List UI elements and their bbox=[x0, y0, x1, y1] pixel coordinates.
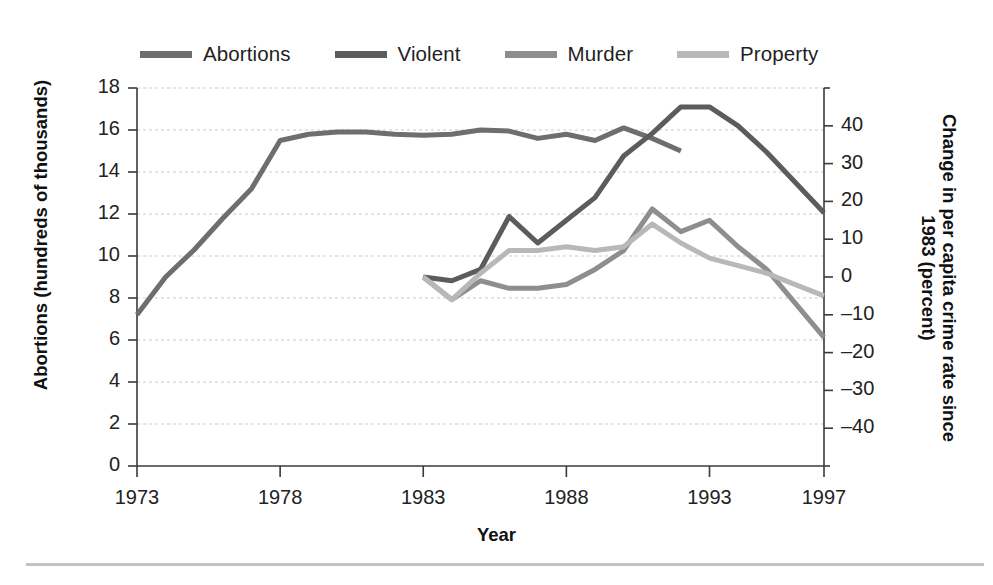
y-tick-label-left: 6 bbox=[80, 327, 120, 350]
x-tick-label: 1983 bbox=[388, 486, 458, 509]
data-series bbox=[137, 107, 824, 338]
y-tick-label-left: 14 bbox=[80, 159, 120, 182]
series-line-abortions bbox=[137, 128, 681, 315]
y-tick-label-right: 30 bbox=[841, 151, 901, 174]
y-tick-label-right: –10 bbox=[841, 302, 901, 325]
chart-figure: AbortionsViolentMurderProperty 024681012… bbox=[0, 0, 993, 585]
y-tick-label-right: –40 bbox=[841, 415, 901, 438]
x-axis-title: Year bbox=[0, 524, 993, 546]
axis-lines bbox=[137, 88, 824, 466]
y-tick-label-left: 10 bbox=[80, 243, 120, 266]
x-tick-label: 1988 bbox=[531, 486, 601, 509]
series-line-violent bbox=[423, 107, 824, 281]
y-axis-left-title: Abortions (hundreds of thousands) bbox=[30, 70, 52, 400]
y-tick-label-right: 40 bbox=[841, 113, 901, 136]
y-tick-label-right: –20 bbox=[841, 340, 901, 363]
y-tick-label-right: 10 bbox=[841, 226, 901, 249]
y-tick-label-left: 0 bbox=[80, 453, 120, 476]
y-tick-label-left: 8 bbox=[80, 285, 120, 308]
gridlines bbox=[137, 88, 824, 424]
x-tick-label: 1993 bbox=[675, 486, 745, 509]
footer-divider bbox=[26, 563, 984, 566]
x-tick-label: 1978 bbox=[245, 486, 315, 509]
y-tick-label-left: 16 bbox=[80, 117, 120, 140]
y-tick-label-left: 18 bbox=[80, 75, 120, 98]
y-tick-label-right: 20 bbox=[841, 188, 901, 211]
y-tick-label-right: –30 bbox=[841, 377, 901, 400]
y-tick-label-left: 2 bbox=[80, 411, 120, 434]
y-tick-label-left: 12 bbox=[80, 201, 120, 224]
x-tick-label: 1997 bbox=[789, 486, 859, 509]
y-tick-label-left: 4 bbox=[80, 369, 120, 392]
y-tick-label-right: 0 bbox=[841, 264, 901, 287]
y-axis-right-title: Change in per capita crime rate since 19… bbox=[917, 108, 960, 448]
x-tick-label: 1973 bbox=[102, 486, 172, 509]
